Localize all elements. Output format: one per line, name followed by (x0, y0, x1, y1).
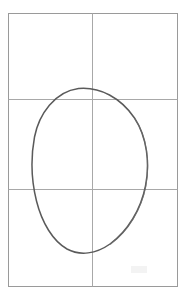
figure-root: Tilted ellipse inscribed in a grid recta… (0, 0, 188, 299)
figure-canvas (0, 0, 188, 299)
figure-background (0, 0, 188, 299)
faint-scan-smudge (131, 266, 147, 273)
